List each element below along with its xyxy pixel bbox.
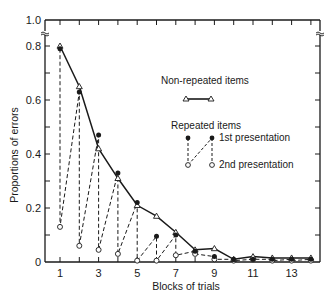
y-tick-label: 0.4: [26, 148, 41, 160]
x-tick-label: 13: [285, 267, 297, 279]
x-tick-label: 9: [211, 267, 217, 279]
y-tick-label: 1.0: [26, 14, 41, 26]
first-presentation-point: [135, 200, 140, 205]
legend-first-label: 1st presentation: [219, 132, 290, 143]
first-presentation-point: [270, 257, 275, 262]
y-tick-label: 0.8: [26, 40, 41, 52]
x-tick-label: 11: [247, 267, 258, 279]
second-presentation-point: [96, 247, 101, 252]
second-presentation-point: [58, 224, 63, 229]
first-presentation-point: [154, 234, 159, 239]
x-tick-label: 3: [96, 267, 102, 279]
second-presentation-point: [135, 258, 140, 263]
legend-repeated-label: Repeated items: [171, 120, 241, 131]
y-axis-title: Proportions of errors: [8, 107, 20, 203]
first-presentation-point: [308, 257, 313, 262]
second-presentation-point: [154, 258, 159, 263]
chart: 00.20.40.60.81.0135791113 Proportions of…: [0, 0, 336, 301]
legend: Non-repeated items Repeated items 1st pr…: [161, 75, 294, 170]
second-presentation-point: [173, 253, 178, 258]
first-presentation-point: [231, 257, 236, 262]
first-presentation-point: [193, 249, 198, 254]
legend-second-label: 2nd presentation: [219, 159, 294, 170]
first-presentation-point: [77, 89, 82, 94]
first-presentation-point: [58, 46, 63, 51]
first-presentation-point: [289, 257, 294, 262]
first-presentation-point: [251, 257, 256, 262]
legend-nonrepeated-swatch: [183, 96, 214, 101]
x-tick-label: 5: [134, 267, 140, 279]
first-presentation-point: [96, 133, 101, 138]
x-tick-label: 7: [173, 267, 179, 279]
y-tick-label: 0: [35, 256, 41, 268]
x-tick-label: 1: [57, 267, 63, 279]
first-presentation-point: [115, 170, 120, 175]
nonrepeated-point: [76, 84, 82, 89]
legend-nonrepeated-label: Non-repeated items: [161, 75, 249, 86]
y-tick-label: 0.6: [26, 94, 41, 106]
y-tick-label: 0.2: [26, 202, 41, 214]
first-presentation-point: [173, 233, 178, 238]
second-presentation-point: [77, 243, 82, 248]
second-presentation-point: [115, 251, 120, 256]
legend-repeated-swatch: [186, 136, 215, 168]
plot-axes: 00.20.40.60.81.0135791113: [26, 14, 324, 279]
x-axis-title: Blocks of trials: [152, 280, 220, 292]
first-presentation-point: [212, 254, 217, 259]
